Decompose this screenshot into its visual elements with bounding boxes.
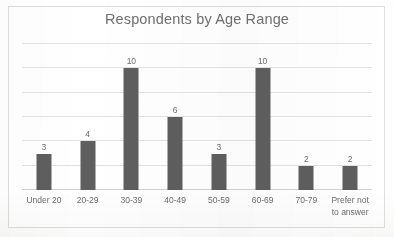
- x-axis-label: 60-69: [241, 195, 285, 207]
- bar-value-label: 10: [127, 56, 136, 66]
- bar-group: 3: [22, 44, 66, 190]
- bar: [211, 154, 226, 191]
- bar: [168, 117, 183, 190]
- bar-value-label: 2: [304, 154, 309, 164]
- bar-group: 10: [110, 44, 154, 190]
- x-axis-label-line: 60-69: [252, 195, 274, 205]
- bar-series: 3410631022: [22, 44, 372, 190]
- bar-group: 3: [197, 44, 241, 190]
- bar-group: 10: [241, 44, 285, 190]
- bar: [124, 68, 139, 190]
- bar: [299, 166, 314, 190]
- x-axis-label: 30-39: [110, 195, 154, 207]
- bar: [255, 68, 270, 190]
- bar-group: 2: [328, 44, 372, 190]
- x-axis-label-line: 70-79: [296, 195, 318, 205]
- x-axis-label-line: to answer: [328, 207, 372, 219]
- x-axis-label-line: 30-39: [121, 195, 143, 205]
- x-axis-label: 20-29: [66, 195, 110, 207]
- bar: [343, 166, 358, 190]
- x-axis-label-line: 20-29: [77, 195, 99, 205]
- plot-area: 3410631022: [22, 44, 372, 190]
- bar-value-label: 3: [42, 142, 47, 152]
- bar-group: 4: [66, 44, 110, 190]
- bar-value-label: 3: [217, 142, 222, 152]
- bar-group: 6: [153, 44, 197, 190]
- x-axis-category-labels: Under 2020-2930-3940-4950-5960-6970-79Pr…: [22, 195, 372, 235]
- bar-value-label: 2: [348, 154, 353, 164]
- x-axis-label: 50-59: [197, 195, 241, 207]
- bar-value-label: 6: [173, 105, 178, 115]
- bar-group: 2: [285, 44, 329, 190]
- x-axis-label: Under 20: [22, 195, 66, 207]
- x-axis-label-line: 40-49: [164, 195, 186, 205]
- chart-screenshot: Respondents by Age Range 3410631022 Unde…: [0, 0, 394, 237]
- x-axis-label-line: 50-59: [208, 195, 230, 205]
- bar-value-label: 4: [85, 129, 90, 139]
- x-axis-label: 40-49: [153, 195, 197, 207]
- bar-value-label: 10: [258, 56, 267, 66]
- x-axis-label: 70-79: [285, 195, 329, 207]
- bar: [80, 141, 95, 190]
- x-axis-label-line: Under 20: [26, 195, 61, 205]
- bar: [36, 154, 51, 191]
- chart-title: Respondents by Age Range: [0, 11, 394, 27]
- x-axis-label: Prefer notto answer: [328, 195, 372, 218]
- x-axis-label-line: Prefer not: [331, 195, 368, 205]
